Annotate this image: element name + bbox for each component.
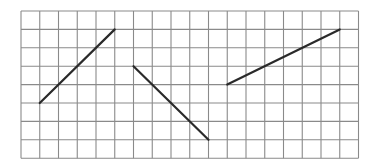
grid bbox=[21, 11, 359, 158]
grid-diagram bbox=[0, 0, 372, 168]
